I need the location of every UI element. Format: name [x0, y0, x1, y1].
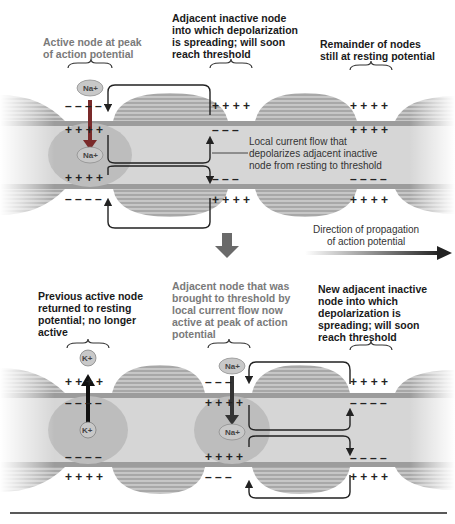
- svg-text:+ + + +: + + + +: [205, 450, 243, 464]
- svg-text:+ + + +: + + + +: [65, 171, 103, 185]
- svg-text:+ + + +: + + + +: [65, 375, 103, 389]
- remaining-nodes-label: Remainder of nodes still at resting pote…: [320, 38, 435, 62]
- previous-active-node-label: Previous active node returned to resting…: [38, 290, 143, 338]
- svg-text:– – – –: – – – –: [65, 192, 102, 206]
- k-ion-inside-label: K+: [82, 425, 92, 437]
- svg-text:– – –: – – –: [205, 470, 232, 484]
- adjacent-now-active-label: Adjacent node that was brought to thresh…: [172, 280, 290, 340]
- down-block-arrow: [215, 233, 239, 258]
- svg-text:+ + + +: + + + +: [350, 123, 388, 137]
- direction-arrow: [305, 246, 452, 260]
- active-node-label: Active node at peak of action potential: [43, 36, 142, 60]
- svg-text:+ + + +: + + + +: [65, 123, 103, 137]
- svg-text:+ + + +: + + + +: [65, 470, 103, 484]
- na-ion-bottom-outside-label: Na+: [225, 361, 240, 373]
- svg-text:+ + + +: + + + +: [205, 396, 243, 410]
- svg-text:+ + + +: + + + +: [212, 99, 250, 113]
- svg-text:– – – –: – – – –: [350, 396, 387, 410]
- svg-text:+ + + +: + + + +: [350, 99, 388, 113]
- svg-text:– – – –: – – – –: [65, 396, 102, 410]
- svg-text:– – –: – – –: [212, 172, 239, 186]
- svg-text:+ + + +: + + + +: [350, 470, 388, 484]
- na-ion-top-outside-label: Na+: [83, 83, 98, 95]
- new-adjacent-inactive-label: New adjacent inactive node into which de…: [318, 283, 427, 343]
- svg-text:+ + + +: + + + +: [212, 193, 250, 207]
- svg-text:– – – –: – – – –: [350, 172, 387, 186]
- svg-text:– – –: – – –: [205, 375, 232, 389]
- local-current-label: Local current flow that depolarizes adja…: [249, 136, 382, 172]
- diagram-canvas: – – – – + + + + + + + + – – – – + + + + …: [0, 0, 455, 524]
- svg-text:– – –: – – –: [212, 123, 239, 137]
- svg-text:+ + + +: + + + +: [350, 193, 388, 207]
- direction-of-propagation-label: Direction of propagation of action poten…: [313, 224, 419, 248]
- svg-text:– – – –: – – – –: [65, 450, 102, 464]
- svg-text:+ + + +: + + + +: [350, 375, 388, 389]
- na-ion-bottom-inside-label: Na+: [225, 427, 240, 439]
- na-ion-top-inside-label: Na+: [83, 150, 98, 162]
- k-ion-outside-label: K+: [82, 353, 92, 365]
- svg-text:– – – –: – – – –: [350, 451, 387, 465]
- adjacent-inactive-node-label: Adjacent inactive node into which depola…: [172, 12, 298, 60]
- svg-text:– – – –: – – – –: [65, 99, 102, 113]
